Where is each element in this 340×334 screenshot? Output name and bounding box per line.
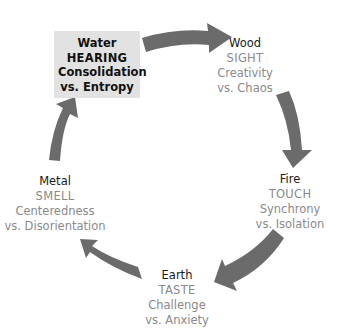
node-metal: Metal SMELL Centeredness vs. Disorientat… (4, 174, 105, 234)
node-metal-positive: Centeredness (4, 204, 105, 219)
node-earth-positive: Challenge (145, 298, 209, 313)
node-water-sense: HEARING (58, 51, 136, 66)
node-fire-sense: TOUCH (256, 187, 325, 202)
node-metal-sense: SMELL (4, 189, 105, 204)
node-wood-positive: Creativity (217, 66, 273, 81)
node-wood-sense: SIGHT (217, 51, 273, 66)
arrow-fire-to-earth-icon (214, 229, 284, 291)
node-wood-element: Wood (217, 36, 273, 51)
node-water-positive: Consolidation (58, 65, 136, 80)
node-fire: Fire TOUCH Synchrony vs. Isolation (256, 172, 325, 232)
node-earth: Earth TASTE Challenge vs. Anxiety (145, 268, 209, 328)
node-fire-negative: vs. Isolation (256, 217, 325, 232)
arrow-metal-to-water-icon (49, 97, 78, 161)
node-earth-negative: vs. Anxiety (145, 313, 209, 328)
arrow-wood-to-fire-icon (276, 91, 312, 168)
node-wood-negative: vs. Chaos (217, 81, 273, 96)
node-metal-element: Metal (4, 174, 105, 189)
node-water-negative: vs. Entropy (58, 80, 136, 95)
node-water-element: Water (58, 36, 136, 51)
node-fire-positive: Synchrony (256, 202, 325, 217)
node-metal-negative: vs. Disorientation (4, 219, 105, 234)
five-element-cycle-diagram: Water HEARING Consolidation vs. Entropy … (0, 0, 340, 334)
node-water: Water HEARING Consolidation vs. Entropy (54, 31, 140, 98)
arrow-earth-to-metal-icon (80, 239, 142, 279)
node-fire-element: Fire (256, 172, 325, 187)
node-earth-element: Earth (145, 268, 209, 283)
node-wood: Wood SIGHT Creativity vs. Chaos (217, 36, 273, 96)
node-earth-sense: TASTE (145, 283, 209, 298)
